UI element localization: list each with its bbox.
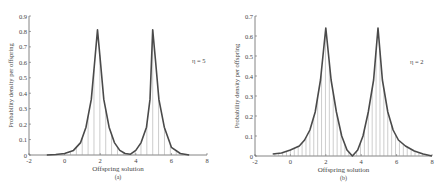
panel-label: (b): [340, 175, 347, 182]
x-axis-label: Offspring solution: [318, 166, 370, 174]
y-tick-label: 0.3: [245, 93, 253, 100]
density-curve: [273, 28, 432, 156]
y-tick-label: 0.7: [19, 43, 28, 50]
x-tick-label: 0: [63, 157, 66, 164]
y-tick-label: 0.8: [19, 28, 27, 35]
y-tick-label: 0.5: [245, 53, 253, 60]
chart-a-plot: 00.10.20.30.40.50.60.70.80.9-202468η = 5…: [0, 0, 222, 192]
x-tick-label: 6: [170, 157, 174, 164]
chart-panel-b: 00.10.20.30.40.50.60.7-202468η = 2Offspr…: [222, 0, 445, 192]
chart-b-plot: 00.10.20.30.40.50.60.7-202468η = 2Offspr…: [222, 0, 445, 192]
y-tick-label: 0.5: [19, 74, 27, 81]
density-curve: [47, 30, 189, 155]
y-tick-label: 0.4: [245, 73, 254, 80]
y-tick-label: 0.6: [19, 59, 28, 66]
x-tick-label: 4: [360, 158, 364, 165]
chart-panel-a: 00.10.20.30.40.50.60.70.80.9-202468η = 5…: [0, 0, 222, 192]
y-tick-label: 0.3: [19, 105, 27, 112]
x-tick-label: 4: [134, 157, 138, 164]
x-tick-label: 2: [324, 158, 327, 165]
x-tick-label: -2: [26, 157, 31, 164]
y-tick-label: 0.2: [245, 113, 253, 120]
y-tick-label: 0.6: [245, 33, 254, 40]
x-tick-label: -2: [252, 158, 257, 165]
y-axis-label: Probability density per offspring: [233, 43, 240, 128]
x-tick-label: 2: [99, 157, 102, 164]
y-tick-label: 0.1: [19, 136, 27, 143]
x-tick-label: 8: [430, 158, 433, 165]
y-tick-label: 0.2: [19, 121, 27, 128]
y-tick-label: 0.9: [19, 13, 27, 20]
y-tick-label: 0.4: [19, 90, 28, 97]
x-tick-label: 6: [395, 158, 399, 165]
y-tick-label: 0.1: [245, 133, 253, 140]
y-tick-label: 0.7: [245, 13, 254, 20]
y-axis-label: Probability density per offspring: [7, 42, 14, 127]
x-axis-label: Offspring solution: [92, 165, 144, 173]
x-tick-label: 8: [205, 157, 208, 164]
panel-label: (a): [115, 174, 122, 181]
eta-annotation: η = 5: [192, 57, 206, 64]
eta-annotation: η = 2: [410, 58, 424, 65]
x-tick-label: 0: [289, 158, 292, 165]
